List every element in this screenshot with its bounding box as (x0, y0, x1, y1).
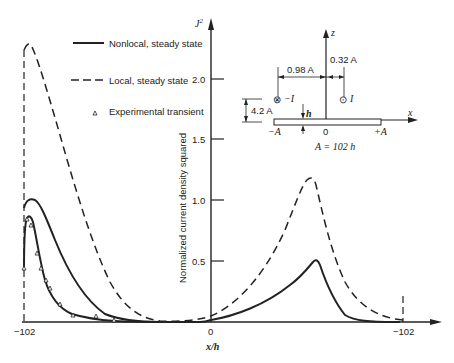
dim-right-label: 0.32 A (330, 54, 358, 65)
y-axis-label: Normalized current density squared (177, 133, 188, 283)
x-axis-arrow-icon (430, 319, 442, 325)
conductor-neg-label: −I (284, 93, 295, 104)
inset-relation: A = 102 h (314, 141, 355, 152)
legend-label-experimental: Experimental transient (109, 106, 204, 117)
x-tick-label-zero: 0 (208, 326, 213, 337)
y-axis-symbol: J2 (195, 17, 203, 29)
y-ticks (211, 79, 224, 261)
dim-left-label: 0.98 A (287, 64, 315, 75)
y-tick-label-2-0: 2.0 (192, 74, 205, 85)
conductor-neg-icon: ⊗ (273, 94, 281, 105)
y-tick-label-0-5: 0.5 (192, 256, 205, 267)
dim-height-label: 4.2 A (251, 105, 273, 116)
triangle-marker-icon (93, 111, 97, 115)
legend-label-local: Local, steady state (109, 75, 188, 86)
strip-pos-label: +A (374, 126, 388, 137)
conductor-pos-icon: ⊙ (339, 94, 347, 105)
x-tick-label-left: −102 (14, 326, 35, 337)
axes (22, 26, 434, 322)
dim-h-label: h (306, 108, 312, 119)
series-experimental-transient (24, 216, 170, 322)
x-axis-label: x/h (205, 341, 220, 352)
conductor-strip (274, 119, 381, 125)
strip-neg-label: −A (268, 126, 282, 137)
conductor-pos-label: I (349, 93, 354, 104)
y-axis-arrow-icon (208, 18, 214, 30)
strip-zero-label: 0 (323, 126, 328, 137)
legend: Nonlocal, steady state Local, steady sta… (71, 38, 204, 117)
z-axis-arrow-icon (323, 29, 329, 38)
x-tick-label-right: −102 (393, 326, 414, 337)
chart: 2.0 1.5 1.0 0.5 J2 Normalized current de… (0, 0, 454, 363)
legend-label-nonlocal: Nonlocal, steady state (109, 38, 202, 49)
y-tick-label-1-5: 1.5 (192, 134, 205, 145)
inset-diagram: z x 0.98 A 0.32 A ⊗ −I ⊙ I 4.2 A (242, 27, 418, 152)
inset-x-label: x (407, 107, 413, 118)
inset-z-label: z (330, 27, 335, 38)
y-tick-label-1-0: 1.0 (192, 195, 205, 206)
series-local-steady-state (24, 44, 403, 321)
